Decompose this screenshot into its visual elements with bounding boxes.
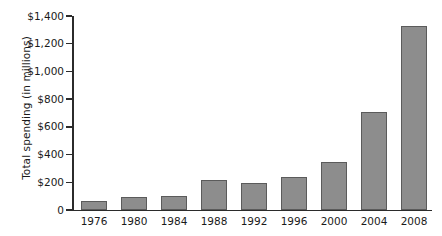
y-axis-tick <box>66 15 72 17</box>
bar-2000 <box>321 162 347 210</box>
bar-chart-figure: Total spending (in millions) 0$200$400$6… <box>0 0 442 236</box>
y-axis-tick-label: $1,400 <box>0 11 64 22</box>
y-axis-tick-label: $600 <box>0 121 64 132</box>
y-axis-tick <box>66 43 72 45</box>
y-axis-tick-label: $1,000 <box>0 66 64 77</box>
bar-1976 <box>81 201 107 210</box>
y-axis-tick <box>66 126 72 128</box>
y-axis-tick-label: $800 <box>0 94 64 105</box>
y-axis-line <box>72 16 74 211</box>
y-axis-tick-label: $400 <box>0 149 64 160</box>
bar-1988 <box>201 180 227 210</box>
bar-2008 <box>401 26 427 210</box>
y-axis-tick <box>66 154 72 156</box>
y-axis-tick <box>66 209 72 211</box>
bar-1996 <box>281 177 307 210</box>
bar-2004 <box>361 112 387 210</box>
plot-area: 0$200$400$600$800$1,000$1,200$1,400 1976… <box>0 0 442 236</box>
y-axis-tick-label: $1,200 <box>0 38 64 49</box>
y-axis-tick-label: $200 <box>0 177 64 188</box>
y-axis-tick <box>66 98 72 100</box>
bar-1984 <box>161 196 187 210</box>
bar-1980 <box>121 197 147 210</box>
y-axis-tick <box>66 71 72 73</box>
bar-1992 <box>241 183 267 210</box>
y-axis-tick-label: 0 <box>0 205 64 216</box>
y-axis-tick <box>66 182 72 184</box>
x-axis-tick-label: 2008 <box>391 215 437 227</box>
